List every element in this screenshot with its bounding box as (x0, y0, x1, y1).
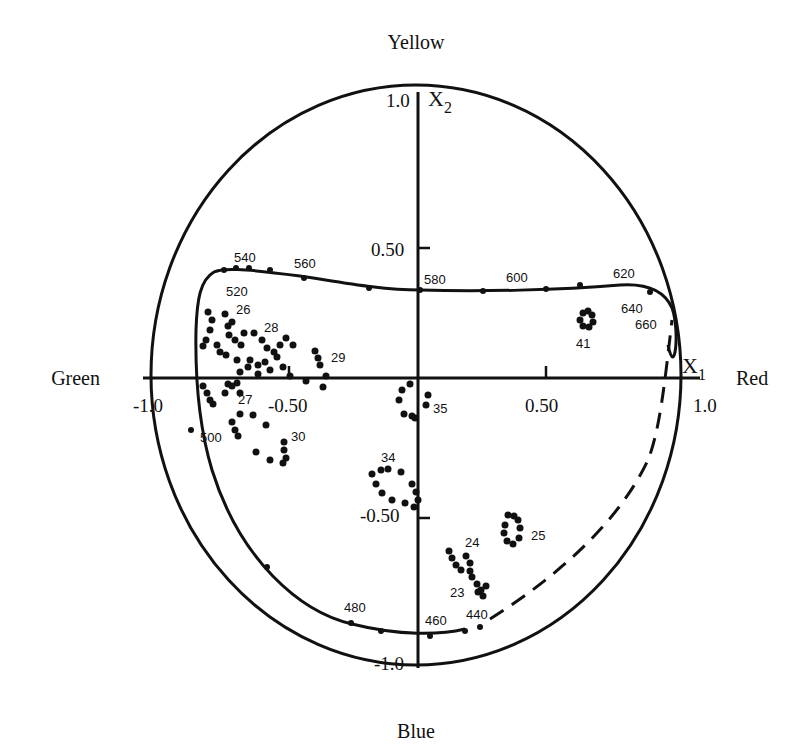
cluster-dots (200, 308, 597, 600)
label-yellow: Yellow (388, 31, 445, 53)
svg-text:30: 30 (291, 429, 305, 444)
svg-text:27: 27 (238, 392, 252, 407)
y-tick-label-pos1: 1.0 (386, 90, 410, 111)
svg-text:520: 520 (226, 284, 248, 299)
svg-text:26: 26 (236, 302, 250, 317)
svg-text:600: 600 (506, 270, 528, 285)
svg-text:620: 620 (613, 266, 635, 281)
svg-text:460: 460 (425, 613, 447, 628)
label-red: Red (736, 367, 768, 389)
y-tick-label-neg05: -0.50 (360, 505, 400, 526)
unit-circle (151, 85, 681, 665)
svg-text:660: 660 (635, 317, 657, 332)
svg-text:41: 41 (576, 336, 590, 351)
opponent-color-diagram: Yellow Blue Green Red X1 X2 -1.0 -0.50 0… (0, 0, 812, 756)
svg-text:29: 29 (331, 350, 345, 365)
x-tick-label-pos1: 1.0 (693, 395, 717, 416)
svg-text:480: 480 (344, 600, 366, 615)
x-tick-label-neg1: -1.0 (133, 395, 163, 416)
svg-text:440: 440 (466, 607, 488, 622)
svg-text:560: 560 (294, 256, 316, 271)
y-tick-label-pos05: 0.50 (371, 239, 404, 260)
purple-line-dashed (490, 320, 672, 619)
svg-text:23: 23 (450, 585, 464, 600)
x2-axis-label: X2 (428, 86, 452, 116)
svg-text:540: 540 (234, 250, 256, 265)
svg-text:580: 580 (424, 272, 446, 287)
x-tick-label-pos05: 0.50 (525, 395, 558, 416)
svg-text:500: 500 (200, 430, 222, 445)
x-tick-label-neg05: -0.50 (268, 395, 308, 416)
svg-text:28: 28 (264, 320, 278, 335)
label-blue: Blue (397, 720, 435, 742)
y-tick-label-neg1: -1.0 (374, 653, 404, 674)
svg-text:24: 24 (465, 535, 479, 550)
cluster-labels: 26 28 29 27 30 35 34 24 23 25 41 (236, 302, 590, 600)
svg-text:34: 34 (381, 450, 395, 465)
svg-text:25: 25 (531, 528, 545, 543)
label-green: Green (51, 367, 100, 389)
svg-text:35: 35 (433, 401, 447, 416)
svg-text:640: 640 (621, 301, 643, 316)
